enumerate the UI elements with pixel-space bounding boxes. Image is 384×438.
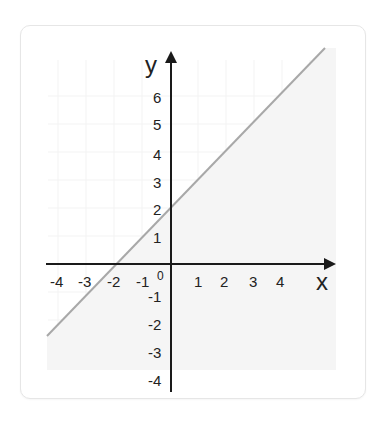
y-axis-label: y bbox=[145, 51, 157, 78]
svg-text:3: 3 bbox=[153, 174, 161, 191]
svg-text:3: 3 bbox=[249, 273, 257, 290]
x-axis-label: x bbox=[316, 268, 328, 295]
svg-text:1: 1 bbox=[153, 229, 161, 246]
svg-text:-2: -2 bbox=[148, 316, 161, 333]
coordinate-plane: y x 0 -4 -3 -2 -1 1 2 3 4 6 5 4 3 2 1 -1… bbox=[0, 0, 384, 438]
svg-text:-4: -4 bbox=[148, 372, 161, 389]
svg-text:5: 5 bbox=[153, 116, 161, 133]
svg-text:-1: -1 bbox=[148, 288, 161, 305]
y-axis-arrow-icon bbox=[165, 51, 177, 63]
svg-text:2: 2 bbox=[153, 201, 161, 218]
svg-text:-3: -3 bbox=[78, 273, 91, 290]
svg-text:2: 2 bbox=[220, 273, 228, 290]
svg-text:4: 4 bbox=[153, 146, 161, 163]
svg-text:4: 4 bbox=[276, 273, 284, 290]
svg-text:-3: -3 bbox=[148, 344, 161, 361]
svg-text:-4: -4 bbox=[50, 273, 63, 290]
svg-text:-2: -2 bbox=[107, 273, 120, 290]
svg-text:6: 6 bbox=[153, 89, 161, 106]
origin-label: 0 bbox=[157, 269, 164, 283]
svg-text:1: 1 bbox=[194, 273, 202, 290]
